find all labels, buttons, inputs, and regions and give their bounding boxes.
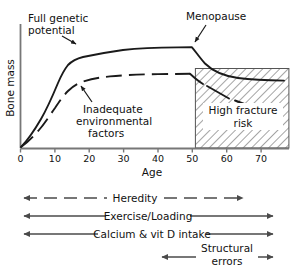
annotation-menopause: Menopause — [186, 10, 246, 42]
full-genetic-potential-label-line2: potential — [28, 24, 75, 36]
high-fracture-risk-label-group: High fracture risk — [203, 103, 283, 130]
factor-bar-calcium-vitd-intake: Calcium & vit D intake — [24, 226, 273, 242]
x-tick-label-40: 40 — [152, 153, 164, 164]
factor-bars: Heredity Exercise/Loading Calcium & vit … — [24, 190, 273, 271]
structural-errors-label-line2: errors — [212, 255, 243, 267]
menopause-label: Menopause — [186, 10, 246, 22]
full-genetic-potential-leader-line — [62, 36, 76, 44]
figure-canvas: 0 10 20 30 40 50 60 70 Age Bone mass — [0, 0, 295, 274]
x-tick-label-60: 60 — [221, 153, 233, 164]
bone-mass-lifecourse-figure: 0 10 20 30 40 50 60 70 Age Bone mass — [0, 0, 295, 274]
x-tick-label-70: 70 — [255, 153, 267, 164]
x-tick-label-10: 10 — [49, 153, 61, 164]
structural-errors-label-line1: Structural — [201, 242, 253, 254]
x-axis-label: Age — [142, 166, 162, 178]
high-fracture-risk-label-line1: High fracture — [208, 104, 277, 116]
inadequate-factors-leader-line — [81, 86, 92, 102]
x-tick-label-30: 30 — [118, 153, 130, 164]
x-tick-label-20: 20 — [83, 153, 95, 164]
exercise-loading-label: Exercise/Loading — [104, 210, 193, 222]
high-fracture-risk-label-line2: risk — [234, 117, 254, 129]
x-tick-label-0: 0 — [17, 153, 23, 164]
inadequate-factors-label-line2: environmental — [76, 115, 152, 127]
x-tick-labels: 0 10 20 30 40 50 60 70 — [17, 153, 267, 164]
factor-bar-exercise-loading: Exercise/Loading — [24, 208, 273, 224]
inadequate-factors-label-line1: Inadequate — [83, 103, 143, 115]
menopause-leader-line — [195, 25, 206, 42]
annotation-full-genetic-potential: Full genetic potential — [28, 12, 89, 44]
factor-bar-structural-errors: Structural errors — [162, 241, 273, 271]
annotation-inadequate-environmental-factors: Inadequate environmental factors — [76, 86, 152, 139]
x-tick-label-50: 50 — [186, 153, 198, 164]
inadequate-factors-label-line3: factors — [88, 127, 124, 139]
plot-area: 0 10 20 30 40 50 60 70 Age Bone mass — [4, 10, 289, 178]
full-genetic-potential-label-line1: Full genetic — [28, 12, 89, 24]
calcium-vitd-intake-label: Calcium & vit D intake — [93, 228, 210, 240]
factor-bar-heredity: Heredity — [24, 190, 243, 206]
y-axis-label: Bone mass — [4, 59, 16, 117]
heredity-label: Heredity — [113, 192, 158, 204]
